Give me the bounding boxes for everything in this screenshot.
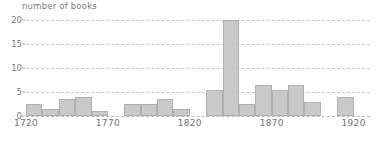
y-tick-mark-10 bbox=[22, 68, 25, 69]
x-tick-label-1920: 1920 bbox=[342, 119, 366, 128]
bar-1790 bbox=[141, 104, 157, 116]
chart-title: number of books bbox=[22, 1, 97, 11]
x-tick-label-1720: 1720 bbox=[14, 119, 38, 128]
y-tick-mark-0 bbox=[22, 116, 25, 117]
bar-1840 bbox=[223, 20, 239, 116]
x-tick-label-1820: 1820 bbox=[178, 119, 202, 128]
y-tick-mark-20 bbox=[22, 20, 25, 21]
bar-1860 bbox=[255, 85, 271, 116]
bar-1830 bbox=[206, 90, 222, 116]
bar-1910 bbox=[337, 97, 353, 116]
bar-1800 bbox=[157, 99, 173, 116]
bars-group bbox=[26, 20, 370, 116]
x-tick-label-1770: 1770 bbox=[96, 119, 120, 128]
plot-area: 05101520 bbox=[26, 20, 370, 116]
x-tick-label-1870: 1870 bbox=[260, 119, 284, 128]
bar-1850 bbox=[239, 104, 255, 116]
y-tick-mark-15 bbox=[22, 44, 25, 45]
bar-1750 bbox=[75, 97, 91, 116]
x-axis-labels: 17201770182018701920 bbox=[26, 119, 370, 137]
y-tick-label-20: 20 bbox=[11, 16, 22, 25]
y-tick-label-10: 10 bbox=[11, 64, 22, 73]
bar-1780 bbox=[124, 104, 140, 116]
bar-1870 bbox=[272, 90, 288, 116]
y-tick-label-5: 5 bbox=[17, 88, 22, 97]
bar-1880 bbox=[288, 85, 304, 116]
y-tick-label-15: 15 bbox=[11, 40, 22, 49]
bar-1890 bbox=[304, 102, 320, 116]
bar-1760 bbox=[92, 111, 108, 116]
histogram-chart: number of books 05101520 172017701820187… bbox=[0, 0, 380, 142]
gridline-0 bbox=[26, 116, 370, 117]
bar-1740 bbox=[59, 99, 75, 116]
bar-1810 bbox=[173, 109, 189, 116]
bar-1730 bbox=[42, 109, 58, 116]
y-tick-mark-5 bbox=[22, 92, 25, 93]
bar-1720 bbox=[26, 104, 42, 116]
